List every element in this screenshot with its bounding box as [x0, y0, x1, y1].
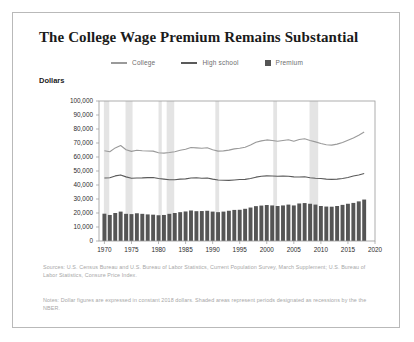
legend-label: College: [132, 59, 155, 66]
svg-text:2000: 2000: [260, 246, 275, 253]
chart-legend: College High school Premium: [13, 59, 401, 66]
svg-text:80,000: 80,000: [73, 125, 93, 132]
legend-item-premium: Premium: [265, 59, 303, 66]
legend-line-icon: [181, 62, 197, 64]
svg-text:1990: 1990: [206, 246, 221, 253]
legend-line-icon: [111, 62, 127, 64]
svg-text:50,000: 50,000: [73, 167, 93, 174]
sources-note: Sources: U.S. Census Bureau and U.S. Bur…: [43, 263, 377, 280]
svg-text:2010: 2010: [314, 246, 329, 253]
svg-text:20,000: 20,000: [73, 209, 93, 216]
svg-text:60,000: 60,000: [73, 153, 93, 160]
svg-text:70,000: 70,000: [73, 139, 93, 146]
svg-text:2015: 2015: [341, 246, 356, 253]
svg-text:1970: 1970: [97, 246, 112, 253]
svg-text:90,000: 90,000: [73, 111, 93, 118]
wage-premium-chart: 010,00020,00030,00040,00050,00060,00070,…: [39, 87, 385, 267]
legend-item-high-school: High school: [181, 59, 238, 66]
legend-square-icon: [265, 60, 271, 66]
svg-text:100,000: 100,000: [70, 97, 94, 104]
plot-area: 010,00020,00030,00040,00050,00060,00070,…: [39, 87, 385, 267]
y-axis-title: Dollars: [39, 76, 64, 85]
svg-text:40,000: 40,000: [73, 181, 93, 188]
svg-text:1980: 1980: [151, 246, 166, 253]
footnote-note: Notes: Dollar figures are expressed in c…: [43, 296, 377, 313]
legend-label: Premium: [276, 59, 303, 66]
legend-item-college: College: [111, 59, 155, 66]
svg-text:1975: 1975: [124, 246, 139, 253]
chart-card: The College Wage Premium Remains Substan…: [12, 12, 400, 328]
svg-text:0: 0: [89, 237, 93, 244]
page-title: The College Wage Premium Remains Substan…: [39, 29, 358, 46]
svg-text:10,000: 10,000: [73, 223, 93, 230]
svg-text:30,000: 30,000: [73, 195, 93, 202]
svg-text:1995: 1995: [233, 246, 248, 253]
svg-text:2005: 2005: [287, 246, 302, 253]
svg-text:1985: 1985: [178, 246, 193, 253]
legend-label: High school: [202, 59, 238, 66]
svg-text:2020: 2020: [368, 246, 383, 253]
